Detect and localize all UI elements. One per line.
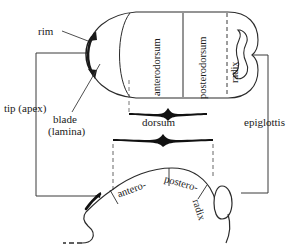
label-anterodorsum: anterodorsum xyxy=(152,38,163,96)
tongue-anatomy-figure: rim tip (apex) blade (lamina) dorsum epi… xyxy=(0,0,301,249)
epiglottis-sagittal xyxy=(214,186,232,219)
tongue-superior-outline xyxy=(88,12,258,98)
label-dorsum: dorsum xyxy=(142,117,175,128)
rim-leader-line xyxy=(62,31,88,41)
dorsum-brace-lower xyxy=(113,134,213,147)
label-blade: blade xyxy=(53,114,77,125)
label-epiglottis: epiglottis xyxy=(244,117,285,128)
epiglottis-sagittal-stem xyxy=(226,214,230,243)
label-blade-lamina: (lamina) xyxy=(48,126,85,137)
label-radix-superior: radix xyxy=(230,61,241,83)
label-posterodorsum: posterodorsum xyxy=(198,37,209,99)
label-tip-apex: tip (apex) xyxy=(4,103,46,114)
label-rim: rim xyxy=(38,26,53,37)
blade-leader-line xyxy=(72,64,100,112)
